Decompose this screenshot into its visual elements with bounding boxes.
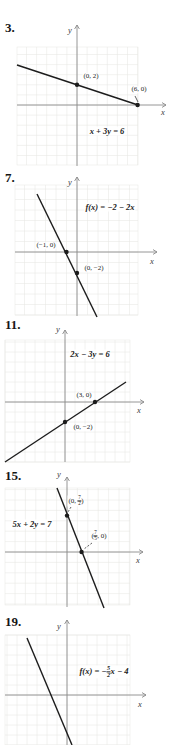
problem-number-7: 7.: [5, 171, 15, 184]
point-dot: [64, 250, 68, 254]
point-leader-line: [68, 507, 71, 512]
equation-label: f(x) = −52x − 4: [79, 665, 130, 678]
point-label: (−1, 0): [35, 242, 56, 249]
problem-number-11: 11.: [5, 318, 21, 331]
point-label: (0, −2): [83, 265, 104, 272]
graph-problem-3: [17, 25, 166, 166]
point-dot: [93, 400, 97, 404]
problem-number-15: 15.: [5, 469, 21, 482]
function-line: [37, 194, 97, 317]
fraction: 52: [107, 665, 111, 678]
function-line: [27, 638, 72, 745]
y-axis-label: y: [57, 622, 61, 631]
point-label: (3, 0): [75, 392, 92, 399]
y-axis-label: y: [57, 470, 61, 479]
point-dot: [65, 513, 69, 517]
problem-number-3: 3.: [5, 21, 15, 34]
point-label: (0, −2): [72, 424, 93, 431]
textbook-graph-exercises: 3. 7. 11. 15. 19. (0, 2)(6, 0)x + 3y = 6…: [0, 0, 181, 745]
equation-label: 2x − 3y = 6: [69, 350, 110, 359]
grid-border: [5, 635, 130, 745]
y-axis-label: y: [68, 26, 72, 35]
problem-number-19: 19.: [5, 615, 21, 628]
point-dot: [135, 103, 139, 107]
x-axis-label: x: [150, 257, 154, 266]
x-axis-label: x: [137, 406, 141, 415]
point-dot: [79, 550, 83, 554]
grid-border: [5, 340, 130, 462]
x-axis-label: x: [161, 108, 165, 117]
fraction: 75: [94, 530, 98, 541]
equation-label: x + 3y = 6: [89, 127, 126, 136]
x-axis-label: x: [136, 556, 140, 565]
plots-canvas: [0, 0, 181, 745]
equation-label: f(x) = −2 − 2x: [84, 203, 135, 212]
equation-label: 5x + 2y = 7: [12, 520, 53, 529]
point-dot: [75, 271, 79, 275]
y-axis-label: y: [68, 178, 72, 187]
graph-problem-19: [5, 620, 146, 745]
point-label: (0, 72): [67, 495, 84, 506]
y-axis-label: y: [56, 325, 60, 334]
point-label: (0, 2): [82, 73, 99, 80]
point-dot: [75, 83, 79, 87]
point-label: (75, 0): [90, 530, 107, 541]
point-label: (6, 0): [130, 86, 147, 93]
x-axis-label: x: [138, 700, 142, 709]
point-dot: [63, 420, 67, 424]
fraction: 72: [78, 495, 82, 506]
